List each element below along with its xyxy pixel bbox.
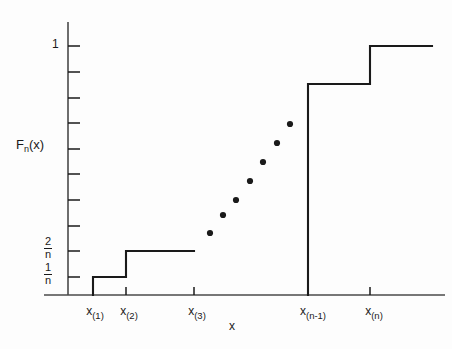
y-axis-title: Fn(x) bbox=[16, 138, 44, 154]
step-curve-right bbox=[308, 46, 432, 295]
step-curve-left bbox=[93, 251, 194, 295]
x-tick-subscript: (1) bbox=[92, 310, 104, 321]
y-tick-label-one-over-n: 1 n bbox=[44, 262, 52, 287]
y-axis-title-tail: (x) bbox=[29, 137, 44, 152]
y-tick-label-two-over-n: 2 n bbox=[44, 236, 52, 261]
figure-empirical-cdf: 1 2 n 1 n Fn(x) x(1) x(2) x(3) x(n-1) x(… bbox=[0, 0, 452, 349]
fraction-denominator: n bbox=[44, 248, 52, 261]
x-tick-label-x2: x(2) bbox=[120, 305, 138, 320]
x-tick-subscript: (n-1) bbox=[306, 310, 326, 321]
x-tick-subscript: (2) bbox=[126, 310, 138, 321]
fraction-numerator: 2 bbox=[44, 236, 52, 248]
y-axis-title-base: F bbox=[16, 137, 24, 152]
fraction-numerator: 1 bbox=[44, 262, 52, 274]
x-tick-label-x3: x(3) bbox=[188, 305, 206, 320]
ellipsis-dots bbox=[207, 121, 293, 236]
x-tick-label-xn: x(n) bbox=[365, 305, 383, 320]
x-tick-label-xn-1: x(n-1) bbox=[300, 305, 326, 320]
y-tick-label-one: 1 bbox=[52, 38, 59, 50]
x-tick-subscript: (n) bbox=[371, 310, 383, 321]
x-axis-title: x bbox=[229, 320, 235, 332]
plot-area bbox=[0, 0, 452, 349]
x-tick-label-x1: x(1) bbox=[86, 305, 104, 320]
fraction-denominator: n bbox=[44, 274, 52, 287]
y-axis-ticks bbox=[68, 46, 80, 277]
x-tick-subscript: (3) bbox=[194, 310, 206, 321]
x-axis-ticks bbox=[93, 287, 370, 295]
